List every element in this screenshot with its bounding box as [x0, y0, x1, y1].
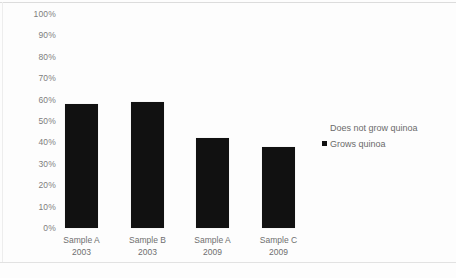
- x-axis-tick-label: Sample C2009: [239, 234, 319, 258]
- chart-legend: Does not grow quinoaGrows quinoa: [322, 120, 452, 152]
- legend-item[interactable]: Does not grow quinoa: [322, 120, 452, 136]
- x-tick-name: Sample A: [194, 235, 230, 245]
- legend-item-label: Does not grow quinoa: [330, 120, 418, 136]
- legend-swatch-icon: [322, 125, 327, 130]
- bar: [196, 138, 229, 228]
- legend-swatch-icon: [322, 141, 327, 146]
- legend-item[interactable]: Grows quinoa: [322, 136, 452, 152]
- bar: [131, 102, 164, 228]
- bar: [65, 104, 98, 228]
- chart-page: 100%90%80%70%60%50%40%30%20%10%0% Sample…: [0, 0, 456, 278]
- bar: [262, 147, 295, 228]
- legend-item-label: Grows quinoa: [330, 136, 386, 152]
- x-tick-name: Sample B: [129, 235, 166, 245]
- x-tick-name: Sample C: [260, 235, 297, 245]
- x-tick-name: Sample A: [63, 235, 99, 245]
- x-tick-year: 2009: [239, 246, 319, 258]
